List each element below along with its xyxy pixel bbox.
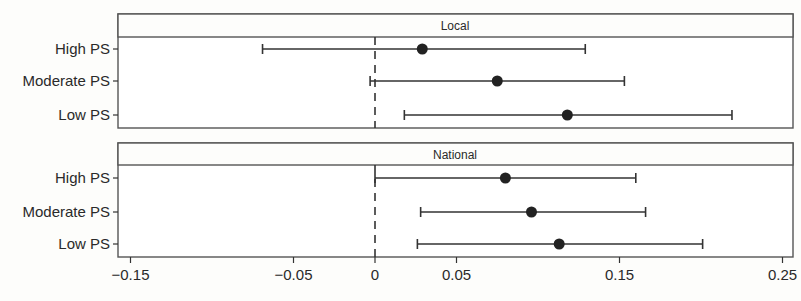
y-tick-label: High PS [55, 40, 110, 57]
strip-label: Local [441, 19, 470, 33]
panels: LocalHigh PSModerate PSLow PSNationalHig… [22, 14, 793, 257]
x-tick-label: −0.05 [275, 266, 313, 283]
y-tick-label: Moderate PS [22, 72, 110, 89]
y-tick-label: Low PS [58, 106, 110, 123]
y-tick-label: Low PS [58, 235, 110, 252]
x-axis: −0.15−0.0500.050.150.25 [112, 257, 798, 283]
point-estimate [492, 76, 503, 87]
panel-local: LocalHigh PSModerate PSLow PS [22, 14, 793, 128]
point-estimate [562, 110, 573, 121]
point-estimate [526, 207, 537, 218]
strip-label: National [433, 148, 477, 162]
point-estimate [554, 239, 565, 250]
y-tick-label: Moderate PS [22, 203, 110, 220]
point-estimate [417, 44, 428, 55]
x-tick-label: 0.05 [442, 266, 471, 283]
x-tick-label: 0 [371, 266, 379, 283]
x-tick-label: −0.15 [112, 266, 150, 283]
panel-national: NationalHigh PSModerate PSLow PS [22, 143, 793, 257]
coefficient-plot: LocalHigh PSModerate PSLow PSNationalHig… [0, 0, 801, 301]
x-tick-label: 0.25 [768, 266, 797, 283]
point-estimate [500, 173, 511, 184]
x-tick-label: 0.15 [605, 266, 634, 283]
y-tick-label: High PS [55, 169, 110, 186]
